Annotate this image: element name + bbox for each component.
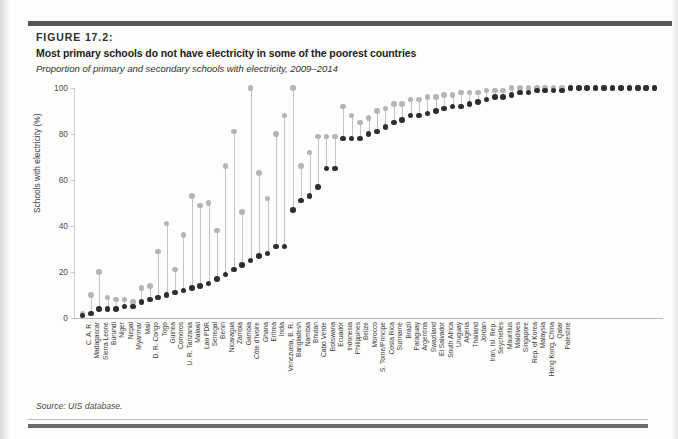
stem-line: [326, 136, 327, 168]
x-tick-label: Indonesia: [346, 322, 353, 351]
data-point-secondary: [105, 295, 111, 301]
data-point-secondary: [492, 88, 498, 94]
y-tick-label: 40: [59, 221, 68, 231]
figure-page: FIGURE 17.2: Most primary schools do not…: [0, 0, 678, 439]
x-tick-label: Benin: [219, 322, 226, 339]
data-point-primary: [391, 120, 397, 126]
data-point-secondary: [298, 163, 304, 169]
data-point-primary: [265, 251, 271, 257]
data-point-primary: [231, 267, 237, 273]
data-point-primary: [534, 88, 540, 94]
stem-line: [99, 272, 100, 309]
x-tick-label: C. A. R.: [85, 322, 92, 345]
data-point-primary: [517, 90, 523, 96]
x-tick-label: Senegal: [211, 322, 218, 346]
x-tick-label: Palestine: [564, 322, 571, 349]
page-left-edge: [0, 0, 9, 439]
x-tick-label: Mauritius: [506, 322, 513, 349]
data-point-primary: [147, 297, 153, 303]
x-tick-label: Swaziland: [430, 322, 437, 352]
data-point-secondary: [416, 97, 422, 103]
y-axis-line: [74, 88, 75, 319]
data-point-primary: [526, 90, 532, 96]
data-point-primary: [643, 85, 649, 91]
data-point-secondary: [315, 134, 321, 140]
data-point-secondary: [181, 232, 187, 238]
data-point-primary: [441, 106, 447, 112]
x-tick-label: Argentina: [421, 322, 428, 350]
x-tick-label: Ecuador: [337, 322, 344, 347]
x-tick-label: South Africa: [447, 322, 454, 358]
x-tick-label: Cabo Verde: [320, 322, 327, 357]
y-tick-label: 80: [59, 129, 68, 139]
data-point-primary: [332, 166, 338, 172]
data-point-primary: [298, 198, 304, 204]
y-tick-mark: [71, 226, 74, 227]
source-note: Source: UIS database.: [36, 401, 122, 411]
data-point-secondary: [425, 94, 431, 100]
data-point-primary: [408, 113, 414, 119]
data-point-primary: [189, 285, 195, 291]
y-tick-mark: [71, 134, 74, 135]
stem-line: [284, 116, 285, 247]
stem-line: [158, 251, 159, 297]
x-tick-label: Maldives: [514, 322, 521, 348]
x-axis-line: [74, 318, 663, 319]
y-tick-mark: [71, 180, 74, 181]
x-tick-label: Morocco: [371, 322, 378, 347]
data-point-secondary: [399, 101, 405, 107]
data-point-primary: [155, 295, 161, 301]
data-point-secondary: [248, 85, 254, 91]
x-tick-label: Jordan: [480, 322, 487, 342]
data-point-primary: [509, 92, 515, 98]
data-point-secondary: [458, 90, 464, 96]
data-point-primary: [273, 244, 279, 250]
x-tick-label: Myanmar: [135, 322, 142, 350]
data-point-primary: [290, 207, 296, 213]
x-tick-label: Hong Kong, China: [548, 322, 555, 376]
x-tick-label: Eritrea: [270, 322, 277, 342]
data-point-secondary: [147, 283, 153, 289]
data-point-primary: [172, 290, 178, 296]
x-tick-label: Malaysia: [539, 322, 546, 348]
data-point-primary: [113, 306, 119, 312]
y-tick-mark: [71, 88, 74, 89]
stem-line: [276, 134, 277, 247]
stem-line: [234, 132, 235, 270]
y-axis-title: Schools with electricity (%): [32, 113, 42, 213]
data-point-secondary: [239, 209, 245, 215]
data-point-secondary: [391, 101, 397, 107]
data-point-secondary: [307, 150, 313, 156]
x-tick-label: Zambia: [236, 322, 243, 344]
data-point-primary: [374, 129, 380, 135]
data-point-primary: [399, 117, 405, 123]
x-tick-label: Brazil: [405, 322, 412, 339]
figure-subtitle: Proportion of primary and secondary scho…: [36, 63, 338, 74]
x-tick-label: Bhutan: [312, 322, 319, 343]
stem-line: [335, 136, 336, 168]
y-tick-mark: [71, 318, 74, 319]
data-point-secondary: [231, 129, 237, 135]
data-point-primary: [256, 253, 262, 259]
x-tick-label: U. R. Tanzania: [186, 322, 193, 365]
chart-plot-area: 020406080100 C. A. R.MadagascarSierra Le…: [74, 88, 663, 318]
x-tick-label: Malawi: [194, 322, 201, 343]
data-point-secondary: [265, 196, 271, 202]
stem-line: [251, 88, 252, 261]
figure-title: Most primary schools do not have electri…: [36, 47, 416, 59]
data-point-primary: [239, 262, 245, 268]
data-point-secondary: [197, 203, 203, 209]
stem-line: [259, 173, 260, 256]
data-point-secondary: [509, 85, 515, 91]
data-point-primary: [450, 104, 456, 110]
data-point-secondary: [282, 113, 288, 119]
data-point-secondary: [366, 115, 372, 121]
data-point-primary: [433, 108, 439, 114]
data-point-primary: [492, 94, 498, 100]
data-point-secondary: [172, 267, 178, 273]
data-point-secondary: [96, 269, 102, 275]
stem-line: [310, 152, 311, 196]
data-point-secondary: [113, 297, 119, 303]
stem-line: [318, 136, 319, 187]
data-point-primary: [576, 85, 582, 91]
